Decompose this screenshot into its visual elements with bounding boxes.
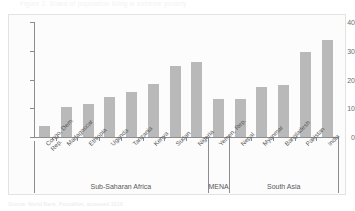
group-separator — [229, 141, 230, 193]
group-separator — [338, 141, 339, 193]
bar-slot — [143, 22, 165, 137]
bar-slot — [273, 22, 295, 137]
bar-slot — [164, 22, 186, 137]
bar-slot — [186, 22, 208, 137]
bar[interactable] — [170, 66, 181, 137]
bar-slot — [34, 22, 56, 137]
source-note: Source: World Bank, PovcalNet, accessed … — [8, 201, 124, 207]
bar[interactable] — [191, 62, 202, 137]
group-separator — [34, 141, 35, 193]
bar-slot — [251, 22, 273, 137]
bar-slot — [121, 22, 143, 137]
bar[interactable] — [213, 99, 224, 137]
chart-title: Figure 2. Share of population living in … — [20, 0, 187, 7]
bar-slot — [316, 22, 338, 137]
group-label: MENA — [208, 183, 228, 190]
group-label: Sub-Saharan Africa — [90, 183, 151, 190]
figure-container: Figure 2. Share of population living in … — [0, 0, 355, 211]
bar-series — [34, 22, 338, 137]
bar[interactable] — [322, 40, 333, 137]
bar-slot — [99, 22, 121, 137]
bar-slot — [208, 22, 230, 137]
group-label: South Asia — [267, 183, 300, 190]
bar[interactable] — [256, 87, 267, 137]
y-tick-mark — [30, 137, 34, 138]
